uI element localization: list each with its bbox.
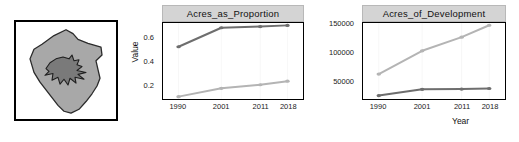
chart-1-title-strip: Acres_as_Proportion [162,5,304,22]
data-point-series-light [219,87,223,90]
data-point-series-light [459,36,464,39]
y-tick-label: 50000 [333,77,358,86]
chart-2-plot-area [362,22,506,100]
chart-2-title-strip: Acres_of_Development [362,5,506,22]
data-point-series-light [285,80,289,83]
line-series-light [179,81,288,96]
chart-acres-as-proportion: Acres_as_Proportion 0.20.40.6 1990200120… [128,5,310,137]
x-tick-label: 2001 [213,102,230,111]
chart-2-title: Acres_of_Development [383,8,486,19]
data-point-series-dark [258,25,262,28]
chart-acres-of-development: Acres_of_Development 50000100000150000 1… [318,5,510,137]
y-tick-label: 0.6 [144,32,158,41]
line-series-dark [379,89,489,96]
data-point-series-dark [377,94,382,97]
x-tick-label: 2001 [414,102,431,111]
county-map-graphic [16,22,116,119]
x-tick-label: 2011 [454,102,470,111]
county-map-panel [14,20,118,121]
x-tick-label: 2011 [253,102,269,111]
x-tick-label: 1990 [169,102,186,111]
data-point-series-dark [420,88,425,91]
data-point-series-light [420,49,425,52]
data-point-series-dark [285,24,289,27]
y-tick-label: 100000 [329,48,358,57]
data-point-series-dark [219,26,223,29]
y-tick-label: 0.2 [144,81,158,90]
line-series-light [379,25,489,74]
x-axis-label: Year [452,116,469,126]
data-point-series-dark [487,87,492,90]
figure-panel: Acres_as_Proportion 0.20.40.6 1990200120… [0,0,519,142]
data-point-series-dark [176,45,180,48]
x-tick-label: 2018 [280,102,297,111]
x-tick-label: 2018 [482,102,499,111]
chart-2-y-axis-ticks: 50000100000150000 [318,22,358,100]
chart-1-plot-area [162,22,304,100]
chart-2-lines [363,23,505,99]
line-series-dark [179,25,288,46]
data-point-series-dark [459,87,464,90]
y-tick-label: 150000 [329,19,358,28]
data-point-series-light [176,95,180,98]
y-axis-label: Value [130,41,140,62]
chart-1-title: Acres_as_Proportion [187,8,280,19]
chart-1-x-axis-ticks: 1990200120112018 [162,102,304,116]
chart-1-lines [163,23,303,99]
x-tick-label: 1990 [370,102,387,111]
data-point-series-light [377,72,382,75]
chart-2-x-axis-ticks: 1990200120112018 [362,102,506,116]
y-tick-label: 0.4 [144,57,158,66]
data-point-series-light [258,83,262,86]
data-point-series-light [487,24,492,27]
